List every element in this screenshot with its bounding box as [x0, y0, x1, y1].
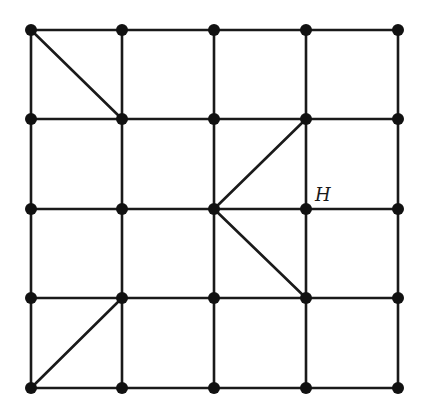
diagonal-edge	[31, 298, 122, 388]
vertex-dot	[300, 113, 312, 125]
vertex-dot	[208, 292, 220, 304]
vertex-dot	[392, 382, 404, 394]
diagonal-edge	[214, 209, 306, 298]
vertex-dot	[208, 203, 220, 215]
vertex-dot	[208, 24, 220, 36]
vertex-dot	[392, 203, 404, 215]
vertex-dot	[208, 382, 220, 394]
vertex-dot	[208, 113, 220, 125]
vertex-dot	[25, 292, 37, 304]
vertex-dot	[25, 382, 37, 394]
vertex-dot	[25, 203, 37, 215]
diagonal-edge	[214, 119, 306, 209]
vertex-dot	[116, 292, 128, 304]
vertex-dot	[25, 113, 37, 125]
vertex-dot	[392, 24, 404, 36]
vertex-dot	[25, 24, 37, 36]
vertex-dot	[300, 203, 312, 215]
vertex-dot	[300, 24, 312, 36]
vertex-dot	[300, 292, 312, 304]
vertex-dot	[116, 24, 128, 36]
diagonal-edge	[31, 30, 122, 119]
vertex-dot	[116, 113, 128, 125]
vertex-dot	[116, 382, 128, 394]
grid-graph: H	[0, 0, 427, 411]
vertex-dot	[392, 292, 404, 304]
graph-labels: H	[314, 184, 331, 205]
vertex-dot	[300, 382, 312, 394]
vertex-dot	[116, 203, 128, 215]
vertex-dot	[392, 113, 404, 125]
vertex-label-h: H	[314, 184, 331, 205]
